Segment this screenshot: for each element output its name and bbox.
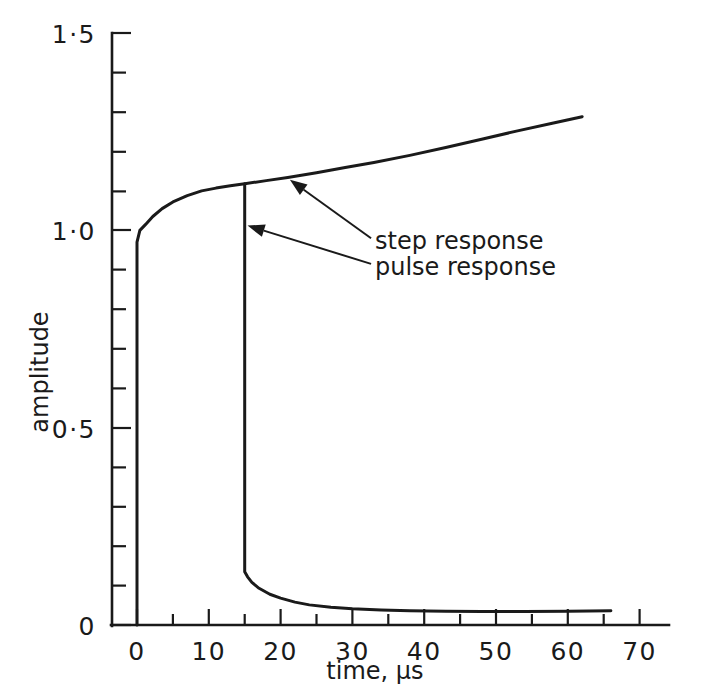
- line-chart: 1·5 1·0 0·5 0 0 10 20 30 40 50 60 70 amp…: [0, 0, 705, 696]
- annotation-arrowhead-icon: [248, 224, 266, 236]
- pulse-response-label: pulse response: [375, 253, 556, 281]
- annotation-leader-line: [264, 231, 371, 264]
- y-tick-label-0: 0: [79, 612, 96, 641]
- y-tick-label-0-5: 0·5: [52, 415, 96, 444]
- x-axis-minor-ticks: [173, 614, 604, 625]
- x-axis-title: time, µs: [326, 657, 423, 685]
- x-tick-label-10: 10: [191, 637, 226, 666]
- x-tick-label-0: 0: [128, 637, 145, 666]
- annotation-layer: [248, 180, 372, 264]
- x-tick-label-70: 70: [622, 637, 657, 666]
- y-tick-label-1-0: 1·0: [52, 217, 96, 246]
- x-tick-label-50: 50: [479, 637, 514, 666]
- figure-container: 1·5 1·0 0·5 0 0 10 20 30 40 50 60 70 amp…: [0, 0, 705, 696]
- x-tick-label-60: 60: [550, 637, 585, 666]
- y-axis-major-ticks: [112, 33, 131, 625]
- y-tick-label-1-5: 1·5: [52, 20, 96, 49]
- step-response-curve: [137, 117, 582, 625]
- annotation-leader-line: [304, 190, 371, 238]
- step-response-label: step response: [375, 227, 544, 255]
- x-tick-label-20: 20: [263, 637, 298, 666]
- annotation-arrowhead-icon: [290, 180, 308, 195]
- y-axis-title: amplitude: [26, 311, 54, 432]
- y-axis-minor-ticks: [112, 73, 126, 586]
